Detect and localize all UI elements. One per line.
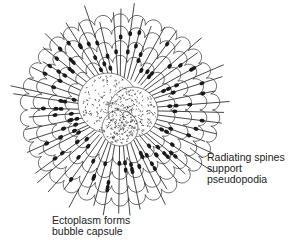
label-radiating-spines: Radiating spines support pseudopodia [207, 152, 285, 185]
label-ectoplasm: Ectoplasm forms bubble capsule [52, 215, 130, 237]
label-line: bubble capsule [52, 226, 130, 237]
radiolarian-diagram [0, 0, 298, 247]
label-line: pseudopodia [207, 174, 285, 185]
central-capsule [78, 73, 158, 146]
